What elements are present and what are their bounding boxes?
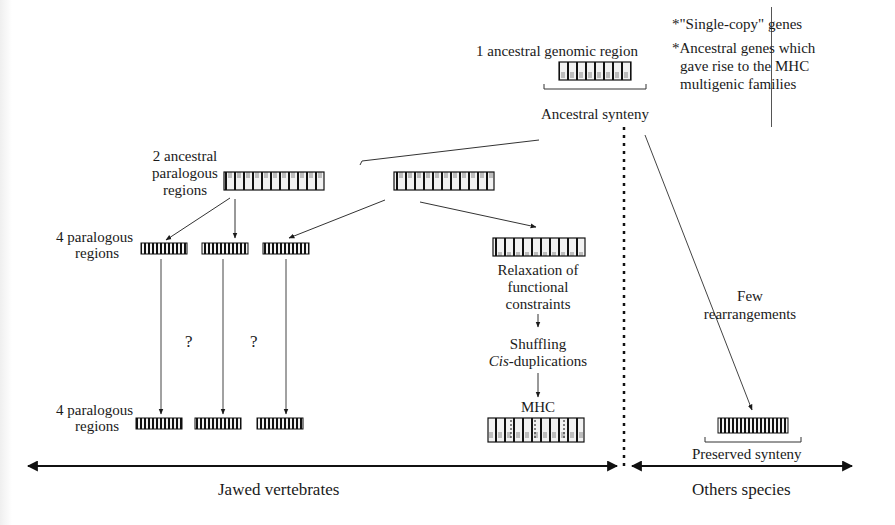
relaxation-label-line3: constraints	[478, 296, 598, 313]
legend-item-single-copy: *"Single-copy" genes	[672, 16, 802, 33]
paralogous-region-block-a	[224, 172, 324, 190]
root-region-label: 1 ancestral genomic region	[476, 43, 638, 60]
level3-label-line1: 4 paralogous	[56, 229, 133, 246]
ancestral-gene-block	[559, 62, 631, 80]
mhc-label: MHC	[478, 399, 598, 416]
relaxation-label-line1: Relaxation of	[478, 262, 598, 279]
unknown-marker-2: ?	[250, 333, 258, 350]
mhc-precursor-block	[493, 238, 585, 256]
level2-label-line2: paralogous	[140, 165, 230, 182]
preserved-synteny-caption: Preserved synteny	[692, 446, 802, 463]
paralogous-final-block-2	[195, 418, 241, 429]
cis-rest: -duplications	[509, 353, 587, 369]
legend-item-ancestral-genes: *Ancestral genes which	[672, 40, 815, 57]
paralogous-small-block-2	[202, 243, 248, 254]
paralogous-final-block-3	[257, 418, 303, 429]
paralogous-small-block-1	[141, 243, 187, 254]
jawed-vertebrates-label: Jawed vertebrates	[218, 481, 339, 498]
level4-label-line1: 4 paralogous	[56, 402, 133, 419]
level3-label-line2: regions	[75, 245, 119, 262]
shuffling-label: Shuffling	[478, 336, 598, 353]
root-to-split-line	[360, 140, 539, 165]
paralogous-region-block-b	[394, 172, 494, 190]
relaxation-label-line2: functional	[478, 279, 598, 296]
ancestral-synteny-caption: Ancestral synteny	[541, 106, 649, 123]
legend-item-ancestral-genes-line3: multigenic families	[680, 76, 796, 93]
paralogous-final-block-1	[136, 418, 182, 429]
few-rearrangements-line2: rearrangements	[700, 306, 800, 323]
level4-label-line2: regions	[75, 418, 119, 435]
other-species-label: Others species	[692, 481, 791, 498]
level2-label-line1: 2 ancestral	[140, 148, 230, 165]
few-rearrangements-line1: Few	[700, 288, 800, 305]
cis-italic: Cis	[489, 353, 509, 369]
legend-item-ancestral-genes-line2: gave rise to the MHC	[680, 58, 809, 75]
preserved-synteny-bracket	[705, 437, 801, 442]
unknown-marker-1: ?	[185, 333, 193, 350]
paralogous-small-block-3	[263, 243, 309, 254]
ancestral-synteny-bracket	[544, 84, 646, 89]
level2-label-line3: regions	[140, 182, 230, 199]
preserved-gene-block	[718, 418, 788, 433]
cis-duplications-label: Cis-duplications	[478, 353, 598, 370]
mhc-gene-block	[488, 418, 584, 442]
